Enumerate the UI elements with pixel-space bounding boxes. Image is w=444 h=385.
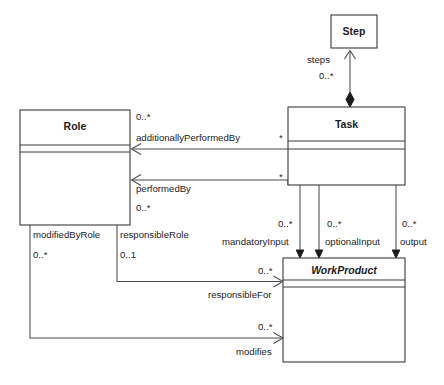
class-box-workproduct[interactable]: WorkProduct [283, 258, 405, 362]
association-output[interactable] [392, 185, 400, 258]
class-box-task[interactable]: Task [288, 107, 405, 185]
label-responsible-for-multiplicity: 0..* [258, 265, 273, 276]
label-responsible-role-role: responsibleRole [120, 229, 189, 240]
label-modifies-multiplicity: 0..* [258, 321, 273, 332]
label-optional-input-multiplicity: 0..* [327, 218, 342, 229]
class-box-role[interactable]: Role [20, 110, 130, 225]
label-output-multiplicity: 0..* [402, 218, 417, 229]
association-mandatory-input[interactable] [296, 185, 304, 258]
label-optional-input-role: optionalInput [325, 236, 380, 247]
label-performed-by-multiplicity: 0..* [136, 202, 151, 213]
association-optional-input[interactable] [315, 185, 323, 258]
class-name-task: Task [335, 118, 358, 130]
label-mandatory-input-role: mandatoryInput [222, 236, 289, 247]
class-name-step: Step [343, 25, 366, 37]
association-additionally-performed-by[interactable] [132, 144, 289, 155]
label-modified-by-role-role: modifiedByRole [33, 229, 100, 240]
label-mandatory-input-multiplicity: 0..* [278, 218, 293, 229]
label-additionally-performed-by-multiplicity: 0..* [136, 111, 151, 122]
label-additionally-performed-by-role: additionallyPerformedBy [136, 132, 240, 143]
label-responsible-role-multiplicity: 0..1 [120, 249, 136, 260]
label-output-role: output [400, 236, 427, 247]
class-box-step[interactable]: Step [331, 15, 377, 48]
label-steps-multiplicity: 0..* [319, 70, 334, 81]
label-modifies-role: modifies [236, 346, 272, 357]
uml-class-diagram: Step Task Role WorkProduct steps 0..* 0.… [0, 0, 444, 385]
label-steps-role: steps [307, 54, 330, 65]
label-performed-by-multiplicity-far: * [279, 171, 283, 182]
class-name-role: Role [64, 120, 87, 132]
association-steps[interactable] [345, 51, 356, 108]
label-performed-by-role: performedBy [136, 183, 191, 194]
class-name-workproduct: WorkProduct [311, 264, 377, 276]
label-additionally-performed-by-multiplicity-far: * [279, 132, 283, 143]
label-responsible-for-role: responsibleFor [208, 289, 272, 300]
label-modified-by-role-multiplicity: 0..* [33, 249, 48, 260]
